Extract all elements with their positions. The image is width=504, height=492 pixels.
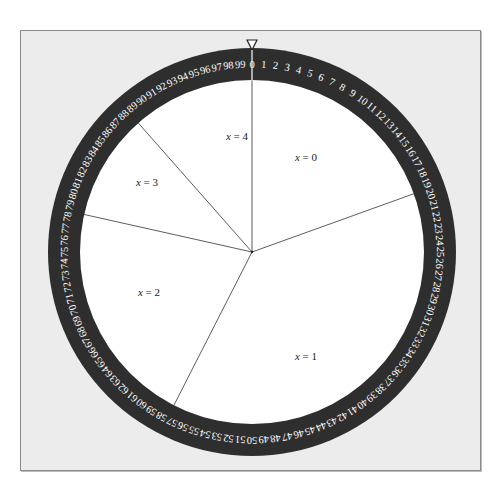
ring-number: 99	[235, 59, 246, 71]
ring-number: 48	[270, 432, 282, 444]
sector-label-x3: x = 3	[135, 176, 159, 188]
ring-number: 52	[223, 432, 235, 444]
ring-number: 1	[261, 59, 267, 70]
ring-number: 50	[247, 435, 258, 446]
ring-number: 26	[434, 258, 446, 269]
ring-number: 23	[432, 223, 444, 235]
sector-label-x1: x = 1	[294, 350, 317, 362]
ring-number: 51	[235, 434, 246, 446]
ring-number: 72	[61, 281, 74, 293]
ring-number: 74	[59, 257, 71, 269]
ring-number: 97	[211, 61, 223, 74]
spinner-wheel-diagram: 0123456789101112131415161718192021222324…	[0, 0, 504, 492]
ring-number: 76	[59, 235, 71, 246]
ring-number: 24	[434, 235, 446, 247]
ring-number: 47	[281, 430, 293, 443]
sector-label-x4: x = 4	[225, 130, 249, 142]
ring-number: 22	[430, 211, 443, 223]
ring-number: 75	[59, 247, 70, 258]
ring-number: 49	[258, 434, 269, 446]
ring-number: 73	[59, 270, 71, 282]
ring-number: 78	[61, 211, 74, 223]
ring-number: 98	[223, 59, 235, 71]
ring-number: 77	[59, 223, 71, 235]
ring-number: 25	[435, 247, 446, 258]
sector-label-x2: x = 2	[137, 286, 160, 298]
ring-number: 27	[432, 270, 444, 282]
center-dot	[251, 251, 253, 253]
ring-number: 53	[211, 430, 223, 443]
ring-number: 28	[430, 281, 443, 293]
sector-label-x0: x = 0	[294, 151, 318, 163]
